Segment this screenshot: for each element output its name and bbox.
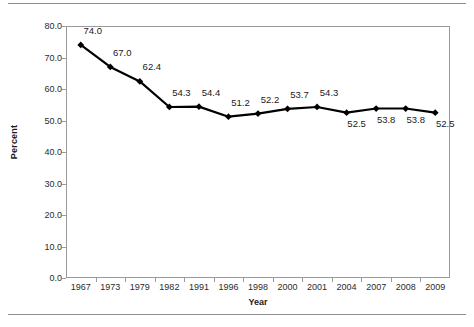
series-layer <box>0 0 474 327</box>
line-chart: Percent Year 0.010.020.030.040.050.060.0… <box>0 0 474 327</box>
data-point-marker <box>284 105 291 112</box>
series-line <box>81 45 435 117</box>
data-point-marker <box>314 104 321 111</box>
data-point-marker <box>402 105 409 112</box>
data-point-marker <box>373 105 380 112</box>
data-point-marker <box>196 103 203 110</box>
data-point-marker <box>432 109 439 116</box>
data-point-marker <box>225 113 232 120</box>
data-point-marker <box>255 110 262 117</box>
data-point-marker <box>343 109 350 116</box>
